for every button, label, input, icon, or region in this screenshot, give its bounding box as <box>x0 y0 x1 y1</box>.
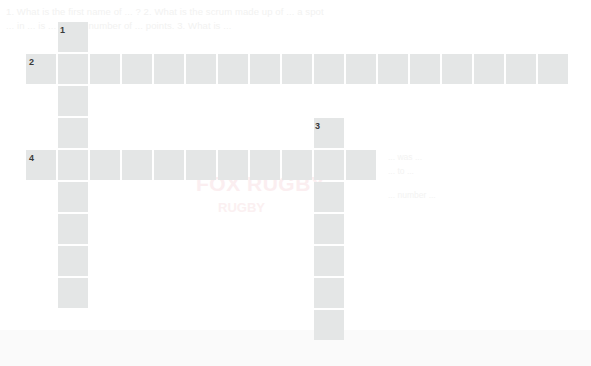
crossword-cell[interactable] <box>122 54 152 84</box>
crossword-cell[interactable] <box>314 54 344 84</box>
crossword-cell[interactable] <box>538 54 568 84</box>
crossword-cell[interactable] <box>314 278 344 308</box>
crossword-cell[interactable] <box>282 150 312 180</box>
crossword-page: 1. What is the first name of ... ? 2. Wh… <box>0 0 591 366</box>
crossword-cell[interactable] <box>90 54 120 84</box>
crossword-cell[interactable] <box>282 54 312 84</box>
crossword-cell[interactable] <box>314 182 344 212</box>
crossword-cell[interactable] <box>122 150 152 180</box>
clue-number-4: 4 <box>29 154 34 163</box>
crossword-cell[interactable] <box>186 54 216 84</box>
crossword-cell[interactable] <box>506 54 536 84</box>
crossword-cell[interactable] <box>58 150 88 180</box>
crossword-cell[interactable] <box>154 150 184 180</box>
crossword-cell[interactable] <box>58 182 88 212</box>
crossword-cell[interactable] <box>346 54 376 84</box>
crossword-cell[interactable] <box>58 278 88 308</box>
clue-number-1: 1 <box>60 26 65 35</box>
crossword-cell[interactable] <box>250 54 280 84</box>
crossword-cell[interactable] <box>378 54 408 84</box>
crossword-cell[interactable] <box>474 54 504 84</box>
crossword-cell[interactable] <box>314 150 344 180</box>
crossword-cell[interactable] <box>442 54 472 84</box>
crossword-cell[interactable] <box>314 246 344 276</box>
crossword-cell[interactable] <box>346 150 376 180</box>
crossword-cell[interactable] <box>218 150 248 180</box>
crossword-cell[interactable] <box>154 54 184 84</box>
crossword-cell[interactable] <box>58 246 88 276</box>
crossword-cell[interactable] <box>58 54 88 84</box>
crossword-grid[interactable]: 1234 <box>0 0 591 366</box>
crossword-cell[interactable] <box>314 214 344 244</box>
crossword-cell[interactable] <box>58 214 88 244</box>
crossword-cell[interactable] <box>58 118 88 148</box>
crossword-cell[interactable] <box>218 54 248 84</box>
crossword-cell[interactable] <box>410 54 440 84</box>
crossword-cell[interactable] <box>58 86 88 116</box>
crossword-cell[interactable] <box>186 150 216 180</box>
crossword-cell[interactable] <box>314 310 344 340</box>
crossword-cell[interactable] <box>250 150 280 180</box>
crossword-cell[interactable] <box>90 150 120 180</box>
clue-number-3: 3 <box>315 122 320 131</box>
clue-number-2: 2 <box>29 58 34 67</box>
